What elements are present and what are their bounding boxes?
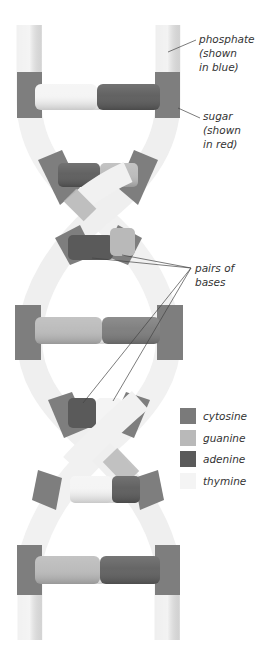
legend-label-cytosine: cytosine [203, 410, 247, 422]
base-pair-7 [35, 556, 160, 584]
legend-label-thymine: thymine [203, 475, 246, 487]
legend-label-adenine: adenine [203, 453, 245, 465]
label-sugar-line-3: in red) [203, 138, 237, 150]
legend-item-cytosine: cytosine [180, 408, 247, 424]
label-pairs-of-bases: pairs of bases [194, 262, 237, 288]
label-sugar-line-2: (shown [203, 124, 241, 136]
label-sugar-line-1: sugar [203, 110, 233, 122]
legend-swatch-guanine [180, 430, 196, 446]
legend-label-guanine: guanine [203, 432, 245, 444]
legend-item-adenine: adenine [180, 451, 245, 467]
legend-item-guanine: guanine [180, 430, 245, 446]
label-pairs-line-2: bases [195, 276, 226, 288]
label-phosphate-line-3: in blue) [199, 61, 239, 73]
legend-item-thymine: thymine [180, 473, 246, 489]
label-pairs-line-1: pairs of [194, 262, 237, 274]
base-pair-1 [35, 84, 160, 110]
label-phosphate-line-1: phosphate [198, 33, 255, 45]
dna-diagram: phosphate (shown in blue) sugar (shown i… [0, 0, 260, 657]
legend-swatch-cytosine [180, 408, 196, 424]
label-sugar: sugar (shown in red) [203, 110, 241, 150]
label-phosphate: phosphate (shown in blue) [198, 33, 255, 73]
legend: cytosine guanine adenine thymine [180, 408, 247, 489]
legend-swatch-thymine [180, 473, 196, 489]
label-phosphate-line-2: (shown [199, 47, 237, 59]
legend-swatch-adenine [180, 451, 196, 467]
base-pair-6 [70, 476, 140, 503]
